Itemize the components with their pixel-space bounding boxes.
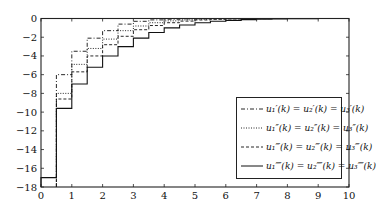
x-tick-label: 9 <box>315 190 321 201</box>
legend-entry-2: u₁″(k) = u₂″(k) = u₃″(k) <box>241 119 368 137</box>
x-tick-label: 10 <box>343 190 356 201</box>
x-tick-label: 4 <box>161 190 167 201</box>
y-tick-label: −18 <box>16 182 37 193</box>
legend: u₁′(k) = u₂′(k) = u₃′(k) u₁″(k) = u₂″(k)… <box>236 97 342 179</box>
x-tick-label: 6 <box>223 190 229 201</box>
dashed-line-icon <box>241 144 263 150</box>
y-tick-label: 0 <box>31 13 37 24</box>
y-tick-label: −12 <box>16 125 37 136</box>
dotted-line-icon <box>241 125 263 131</box>
legend-entry-4: u₁⁗(k) = u₂⁗(k) = u₃⁗(k) <box>241 157 376 175</box>
y-tick-label: −6 <box>22 69 37 80</box>
y-tick-label: −14 <box>16 144 37 155</box>
y-tick-label: −16 <box>16 163 37 174</box>
legend-entry-3: u₁‴(k) = u₂‴(k) = u₃‴(k) <box>241 138 372 156</box>
x-tick-label: 1 <box>69 190 75 201</box>
x-tick-label: 7 <box>253 190 259 201</box>
x-tick-label: 3 <box>130 190 136 201</box>
x-axis-labels: 012345678910 <box>38 190 356 201</box>
x-tick-label: 8 <box>284 190 290 201</box>
y-tick-label: −2 <box>22 32 37 43</box>
legend-label: u₁″(k) = u₂″(k) = u₃″(k) <box>266 123 368 133</box>
x-tick-label: 2 <box>99 190 105 201</box>
y-tick-label: −4 <box>22 50 37 61</box>
solid-line-icon <box>241 163 263 169</box>
legend-label: u₁′(k) = u₂′(k) = u₃′(k) <box>266 104 364 114</box>
y-tick-label: −10 <box>16 107 37 118</box>
x-tick-label: 0 <box>38 190 44 201</box>
y-tick-label: −8 <box>22 88 37 99</box>
x-tick-label: 5 <box>192 190 198 201</box>
dashdot-line-icon <box>241 106 263 112</box>
legend-entry-1: u₁′(k) = u₂′(k) = u₃′(k) <box>241 100 364 118</box>
legend-label: u₁‴(k) = u₂‴(k) = u₃‴(k) <box>266 142 372 152</box>
legend-label: u₁⁗(k) = u₂⁗(k) = u₃⁗(k) <box>266 161 376 171</box>
y-axis-labels: 0−2−4−6−8−10−12−14−16−18 <box>16 13 37 193</box>
